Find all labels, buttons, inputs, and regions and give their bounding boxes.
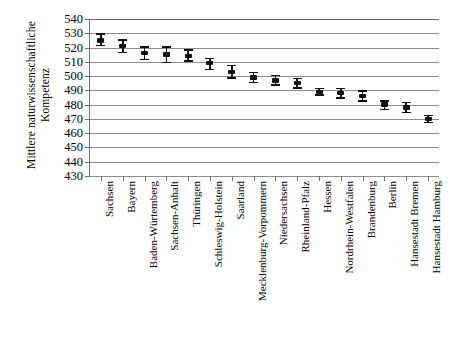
error-bar-cap-lower	[184, 60, 193, 62]
x-axis-tick-label: Sachsen-Anhalt	[169, 181, 180, 251]
data-point-marker	[141, 51, 148, 55]
x-axis-tick-label: Niedersachsen	[278, 181, 289, 245]
y-axis-tick-label: 460	[49, 126, 83, 141]
data-point-marker	[250, 75, 257, 79]
data-point-marker	[337, 91, 344, 95]
data-point-marker	[185, 54, 192, 58]
data-point-marker	[316, 90, 323, 94]
y-axis-tick	[85, 48, 90, 49]
data-point	[95, 19, 107, 176]
y-axis-tick	[85, 19, 90, 20]
error-bar-cap-upper	[336, 88, 345, 90]
data-point	[139, 19, 151, 176]
y-axis-tick	[85, 162, 90, 163]
data-point-marker	[425, 117, 432, 121]
data-point-marker	[228, 70, 235, 74]
x-axis-tick-label: Rheinland-Pfalz	[300, 181, 311, 252]
error-bar-cap-lower	[293, 87, 302, 89]
y-axis-tick	[85, 133, 90, 134]
error-bar-cap-lower	[271, 84, 280, 86]
x-axis-tick-label: Hansestadt Hamburg	[431, 181, 442, 273]
data-point	[248, 19, 260, 176]
error-bar-cap-upper	[96, 33, 105, 35]
y-axis-tick-label: 500	[49, 69, 83, 84]
data-point	[117, 19, 129, 176]
y-axis-tick-label: 450	[49, 140, 83, 155]
error-bar-cap-lower	[424, 122, 433, 124]
error-bar-cap-upper	[293, 78, 302, 80]
error-bar-cap-upper	[227, 65, 236, 67]
data-point-marker	[163, 52, 170, 56]
y-axis-tick-label: 440	[49, 154, 83, 169]
x-axis-tick-label: Sachsen	[104, 181, 115, 217]
y-axis-tick	[85, 90, 90, 91]
chart-figure: Mittlere naturwissenschaftliche Kompeten…	[0, 0, 449, 361]
error-bar-cap-upper	[315, 88, 324, 90]
data-point	[422, 19, 434, 176]
error-bar-cap-upper	[118, 39, 127, 41]
error-bar-cap-upper	[205, 58, 214, 60]
x-axis-tick-label: Hessen	[322, 181, 333, 213]
x-axis-tick-label: Schleswig-Holstein	[213, 181, 224, 267]
plot-area: 540530520510500490480470460450440430	[89, 19, 439, 177]
error-bar-cap-lower	[118, 52, 127, 54]
data-point	[182, 19, 194, 176]
y-axis-tick	[85, 62, 90, 63]
error-bar-cap-lower	[162, 62, 171, 64]
x-axis-tick-label: Mecklenburg-Vorpommern	[257, 181, 268, 301]
data-point	[226, 19, 238, 176]
x-axis-tick-label: Brandenburg	[366, 181, 377, 238]
error-bar-cap-lower	[140, 59, 149, 61]
y-axis-tick-label: 480	[49, 97, 83, 112]
error-bar-cap-lower	[380, 109, 389, 111]
y-axis-tick	[85, 119, 90, 120]
data-point	[378, 19, 390, 176]
data-point-marker	[272, 78, 279, 82]
x-axis-tick-label: Thüringen	[191, 181, 202, 227]
x-axis-labels: SachsenBayernBaden-WürtembergSachsen-Anh…	[89, 181, 438, 359]
data-point	[269, 19, 281, 176]
data-point	[357, 19, 369, 176]
error-bar-cap-lower	[249, 82, 258, 84]
y-axis-tick-label: 470	[49, 111, 83, 126]
y-axis-tick-label: 520	[49, 40, 83, 55]
error-bar-cap-lower	[315, 94, 324, 96]
error-bar-cap-upper	[271, 75, 280, 77]
error-bar-cap-lower	[205, 69, 214, 71]
y-axis-tick-label: 540	[49, 12, 83, 27]
y-axis-tick-label: 530	[49, 26, 83, 41]
error-bar-cap-upper	[162, 46, 171, 48]
y-axis-tick	[85, 147, 90, 148]
error-bar-cap-lower	[96, 45, 105, 47]
data-point	[204, 19, 216, 176]
x-axis-tick-label: Baden-Würtemberg	[148, 181, 159, 268]
error-bar-cap-upper	[140, 46, 149, 48]
y-axis-tick	[85, 76, 90, 77]
data-point	[313, 19, 325, 176]
data-point-marker	[206, 61, 213, 65]
x-axis-tick-label: Hansestadt Bremen	[409, 181, 420, 267]
data-point-marker	[403, 105, 410, 109]
error-bar-cap-lower	[227, 77, 236, 79]
data-point-marker	[381, 102, 388, 106]
data-point-marker	[97, 38, 104, 42]
error-bar-cap-upper	[184, 49, 193, 51]
data-point-marker	[359, 94, 366, 98]
error-bar-cap-upper	[424, 115, 433, 117]
data-point	[291, 19, 303, 176]
y-axis-tick-label: 510	[49, 54, 83, 69]
data-point	[400, 19, 412, 176]
error-bar-cap-upper	[249, 72, 258, 74]
data-point-marker	[119, 44, 126, 48]
y-axis-tick	[85, 33, 90, 34]
error-bar-cap-lower	[402, 112, 411, 114]
x-axis-tick-label: Nordrhein-Westfalen	[344, 181, 355, 274]
data-point	[335, 19, 347, 176]
error-bar-cap-upper	[358, 90, 367, 92]
x-axis-tick-label: Berlin	[387, 181, 398, 209]
gridline	[90, 176, 439, 177]
x-axis-tick-label: Saarland	[235, 181, 246, 219]
data-point	[160, 19, 172, 176]
error-bar-cap-upper	[402, 102, 411, 104]
data-point-marker	[294, 81, 301, 85]
